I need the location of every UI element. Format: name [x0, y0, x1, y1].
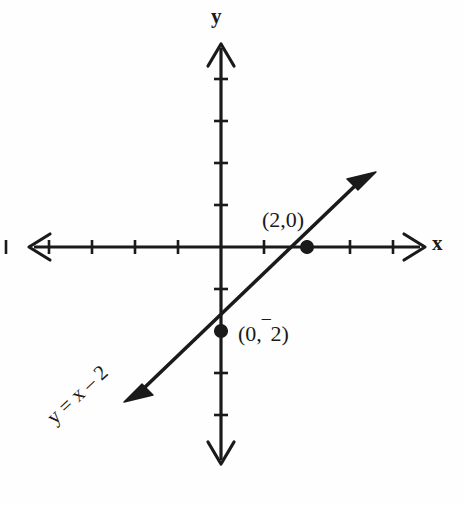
graph-figure: y x (2,0) (0,¯2) y = x – 2 [0, 0, 464, 505]
y-intercept-label-close: 2) [270, 321, 288, 346]
coordinate-plane-svg [0, 0, 464, 505]
plotted-line-y-equals-x-minus-2 [124, 172, 376, 402]
point-marker-y-intercept [214, 324, 228, 338]
point-label-y-intercept: (0,¯2) [238, 318, 289, 345]
point-marker-x-intercept [300, 240, 314, 254]
y-axis-label: y [211, 6, 222, 27]
point-label-x-intercept: (2,0) [262, 209, 304, 231]
y-intercept-label-open: (0, [238, 321, 262, 346]
x-axis-label: x [432, 233, 443, 254]
line-lower-arrowhead-icon [124, 384, 153, 402]
line-segment [142, 183, 358, 390]
y-axis [208, 44, 234, 464]
x-axis [6, 234, 425, 260]
